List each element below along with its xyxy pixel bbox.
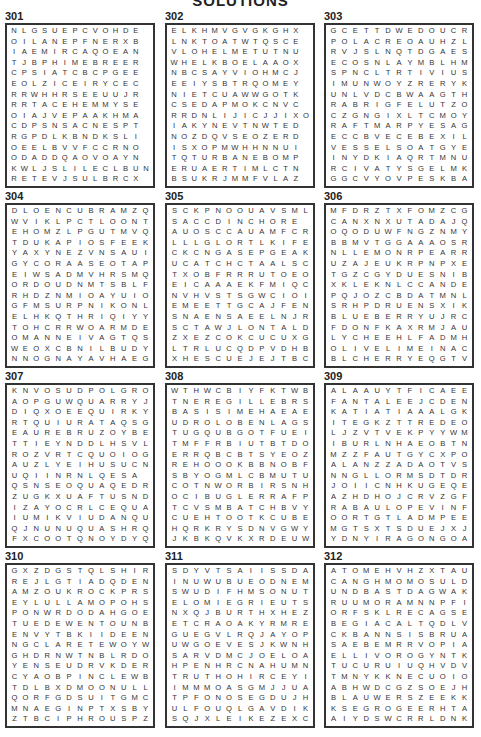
grid-letter: O xyxy=(107,428,118,439)
grid-letter: B xyxy=(328,619,339,630)
grid-letter: E xyxy=(245,407,256,418)
grid-letter: O xyxy=(9,37,19,48)
grid-letter: X xyxy=(180,333,191,344)
grid-letter: M xyxy=(448,227,459,238)
grid-letter: J xyxy=(60,174,70,185)
grid-letter: Z xyxy=(31,587,42,598)
grid-letter: Y xyxy=(20,259,31,270)
grid-letter: Y xyxy=(140,407,151,418)
grid-letter: C xyxy=(191,280,202,291)
grid-letter: W xyxy=(129,672,140,683)
grid-letter: O xyxy=(415,577,426,588)
grid-letter: P xyxy=(210,143,220,154)
grid-letter: E xyxy=(372,143,383,154)
grid-letter: X xyxy=(372,524,383,535)
grid-letter: U xyxy=(191,587,202,598)
grid-letter: P xyxy=(180,661,191,672)
grid-letter: P xyxy=(404,121,415,132)
grid-letter: T xyxy=(169,693,180,704)
grid-letter: A xyxy=(459,630,470,641)
grid-letter: Y xyxy=(224,524,235,535)
grid-letter: L xyxy=(42,577,53,588)
grid-letter: C xyxy=(289,227,300,238)
grid-letter: S xyxy=(169,587,180,598)
grid-letter: M xyxy=(31,513,42,524)
grid-letter: P xyxy=(85,704,96,715)
grid-letter: R xyxy=(9,450,20,461)
grid-letter: R xyxy=(20,280,31,291)
grid-letter: T xyxy=(240,121,250,132)
grid-letter: S xyxy=(415,683,426,694)
grid-letter: O xyxy=(169,492,180,503)
grid-letter: C xyxy=(245,471,256,482)
grid-letter: J xyxy=(361,259,372,270)
grid-letter: H xyxy=(191,291,202,302)
grid-letter: O xyxy=(64,481,75,492)
grid-letter: H xyxy=(267,503,278,514)
grid-letter: K xyxy=(459,164,470,175)
grid-letter: E xyxy=(169,79,179,90)
grid-letter: F xyxy=(350,121,361,132)
grid-letter: E xyxy=(20,577,31,588)
grid-letter: Q xyxy=(224,704,235,715)
grid-letter xyxy=(141,121,151,132)
grid-letter: J xyxy=(245,354,256,365)
grid-letter: R xyxy=(100,58,110,69)
grid-letter: A xyxy=(31,503,42,514)
grid-letter: S xyxy=(42,481,53,492)
grid-letter: H xyxy=(383,566,394,577)
grid-letter: I xyxy=(60,58,70,69)
grid-letter: L xyxy=(350,280,361,291)
grid-letter: O xyxy=(53,407,64,418)
grid-letter: V xyxy=(260,174,270,185)
grid-letter: L xyxy=(437,164,448,175)
grid-letter: U xyxy=(361,693,372,704)
grid-letter: H xyxy=(459,90,470,101)
grid-letter: N xyxy=(85,619,96,630)
grid-letter: R xyxy=(191,651,202,662)
grid-letter: I xyxy=(129,566,140,577)
grid-letter: H xyxy=(107,354,118,365)
grid-letter: R xyxy=(328,47,339,58)
grid-letter: R xyxy=(53,450,64,461)
grid-letter: S xyxy=(426,174,437,185)
grid-letter: Z xyxy=(202,333,213,344)
grid-letter: P xyxy=(415,259,426,270)
grid-letter: N xyxy=(20,704,31,715)
grid-letter: E xyxy=(110,47,120,58)
grid-letter: I xyxy=(96,301,107,312)
grid-letter: U xyxy=(404,270,415,281)
grid-letter: E xyxy=(459,259,470,270)
grid-letter: G xyxy=(372,111,383,122)
grid-letter: L xyxy=(339,344,350,355)
grid-letter: C xyxy=(80,121,90,132)
grid-letter: W xyxy=(383,714,394,725)
grid-letter: V xyxy=(202,566,213,577)
grid-letter: G xyxy=(140,354,151,365)
grid-letter: A xyxy=(404,513,415,524)
grid-letter: B xyxy=(180,471,191,482)
grid-letter: B xyxy=(339,683,350,694)
letter-grid: ELKHMVGVGKGHXLNKTOATWTQSCEVLOHELMETUTNUW… xyxy=(165,23,315,188)
grid-letter: A xyxy=(372,587,383,598)
grid-letter: O xyxy=(129,608,140,619)
grid-letter: Q xyxy=(245,630,256,641)
grid-letter: N xyxy=(202,481,213,492)
grid-letter: P xyxy=(361,301,372,312)
grid-letter: N xyxy=(213,206,224,217)
grid-letter: V xyxy=(383,428,394,439)
grid-letter: N xyxy=(118,513,129,524)
grid-letter: Q xyxy=(75,481,86,492)
grid-letter: N xyxy=(278,312,289,323)
grid-letter: W xyxy=(64,619,75,630)
grid-letter: M xyxy=(459,58,470,69)
grid-letter: L xyxy=(383,503,394,514)
grid-letter: O xyxy=(80,153,90,164)
grid-letter: K xyxy=(235,534,246,545)
grid-letter: D xyxy=(64,608,75,619)
grid-letter: B xyxy=(256,471,267,482)
grid-letter: U xyxy=(53,587,64,598)
grid-letter: R xyxy=(140,566,151,577)
grid-letter: A xyxy=(394,153,405,164)
grid-letter: T xyxy=(224,301,235,312)
